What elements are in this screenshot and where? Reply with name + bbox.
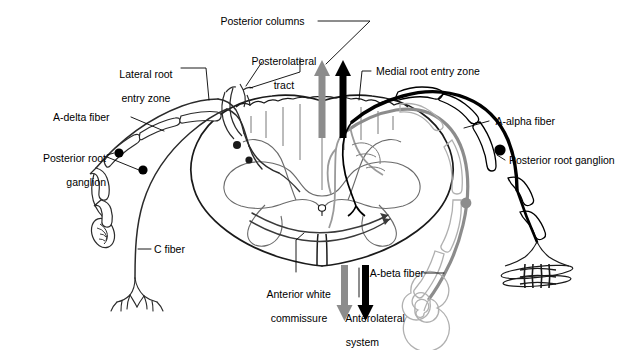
label-posterolateral-tract-line1: Posterolateral (252, 55, 317, 67)
label-posterior-columns: Posterior columns (205, 15, 320, 27)
a-alpha-myelin-segments (396, 87, 496, 171)
posterior-root-ganglion-right (494, 144, 505, 155)
label-posterolateral-tract: Posterolateral tract (238, 43, 324, 91)
a-alpha-distal-myelin (508, 177, 546, 239)
label-posterolateral-tract-line2: tract (274, 79, 294, 91)
a-alpha-fiber (352, 92, 517, 190)
label-posterior-root-ganglion-right: Posterior root ganglion (509, 154, 615, 166)
posterior-root-ganglion-gray (461, 198, 472, 209)
anterior-median-fissure (317, 234, 327, 266)
label-a-alpha-fiber: A-alpha fiber (489, 115, 555, 127)
label-anterolateral-system: Anterolateral system (340, 300, 410, 348)
label-anterolateral-system-line1: Anterolateral (345, 312, 405, 324)
label-c-fiber: C fiber (154, 243, 185, 255)
posterior-root-ganglion-left (114, 148, 147, 174)
label-anterior-white-commissure-line1: Anterior white (267, 288, 331, 300)
muscle-spindle-receptor (501, 242, 574, 288)
a-beta-central-projections (328, 127, 383, 228)
label-anterior-white-commissure-line2: commissure (271, 312, 328, 324)
free-nerve-endings (111, 278, 163, 311)
label-posterior-root-ganglion-left-line1: Posterior root (43, 152, 106, 164)
label-anterior-white-commissure: Anterior white commissure (249, 276, 343, 324)
label-a-delta-fiber: A-delta fiber (53, 111, 110, 123)
label-posterior-root-ganglion-left-line2: ganglion (66, 176, 106, 188)
anterior-white-commissure-fibers (250, 213, 390, 241)
label-a-beta-fiber: A-beta fiber (360, 267, 424, 279)
label-lateral-root-entry-zone: Lateral root entry zone (106, 56, 180, 104)
dorsal-root-ganglion-entry-dots (233, 141, 253, 164)
central-canal (318, 205, 325, 211)
a-delta-myelin-segments (104, 112, 221, 168)
label-lateral-root-entry-zone-line2: entry zone (121, 92, 170, 104)
label-medial-root-entry-zone: Medial root entry zone (376, 65, 480, 77)
label-posterior-root-ganglion-left: Posterior root ganglion (20, 140, 106, 188)
label-lateral-root-entry-zone-line1: Lateral root (119, 68, 172, 80)
label-anterolateral-system-line2: system (346, 336, 379, 348)
